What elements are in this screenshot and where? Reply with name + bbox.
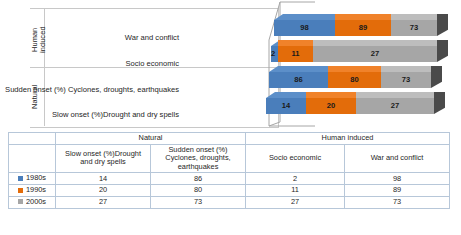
table-column-header-sudden-onset: Sudden onset (%) Cyclones, droughts, ear… (151, 144, 246, 173)
bar-end-face (434, 92, 445, 114)
bar-segment-2000s (313, 46, 437, 62)
legend-label: 2000s (26, 197, 46, 206)
table-group-header-row: Natural Human induced (9, 133, 450, 145)
legend-item-1990s: 1990s (9, 185, 56, 197)
bar-segment-2000s (381, 72, 431, 88)
bar-segment-1980s (266, 98, 306, 114)
table-cell: 86 (151, 173, 246, 185)
bar-row-sudden-onset: 86 80 73 (269, 66, 445, 88)
bar-segment-2000s (391, 20, 437, 36)
legend-label: 1990s (26, 185, 46, 194)
bar-row-socio-economic: 2 11 27 (271, 40, 447, 62)
bar-row-war-and-conflict: 98 89 73 (274, 14, 450, 36)
chart-and-table-figure: Human induced Natural War and conflict S… (0, 0, 461, 235)
table-row: 1980s 14 86 2 98 (9, 173, 450, 185)
table-corner-blank (9, 133, 56, 145)
group-label-human-induced: Human induced (31, 12, 44, 67)
legend-swatch-icon (18, 199, 23, 204)
legend-label: 1980s (26, 173, 46, 182)
table-cell: 27 (246, 197, 345, 209)
data-table-panel: Natural Human induced Slow onset (%)Drou… (0, 129, 461, 235)
data-table: Natural Human induced Slow onset (%)Drou… (8, 132, 450, 209)
table-group-header-human-induced: Human induced (246, 133, 450, 145)
bar-segment-1990s (306, 98, 356, 114)
category-label-slow-onset: Slow onset (%)Drought and dry spells (52, 110, 179, 119)
table-cell: 73 (151, 197, 246, 209)
table-row: 2000s 27 73 27 73 (9, 197, 450, 209)
legend-item-1980s: 1980s (9, 173, 56, 185)
table-column-header-war-and-conflict: War and conflict (345, 144, 450, 173)
stacked-bar-chart-3d: Human induced Natural War and conflict S… (0, 0, 461, 128)
bar-segment-1980s (269, 72, 328, 88)
category-label-sudden-onset: Sudden onset (%) Cyclones, droughts, ear… (5, 85, 179, 94)
category-label-war-and-conflict: War and conflict (125, 33, 179, 42)
table-cell: 89 (345, 185, 450, 197)
table-row: 1990s 20 80 11 89 (9, 185, 450, 197)
legend-item-2000s: 2000s (9, 197, 56, 209)
table-cell: 73 (345, 197, 450, 209)
table-cell: 98 (345, 173, 450, 185)
table-cell: 27 (56, 197, 151, 209)
bar-segment-1980s (271, 46, 278, 62)
table-cell: 80 (151, 185, 246, 197)
group-label-natural: Natural (31, 68, 44, 126)
table-cell: 14 (56, 173, 151, 185)
table-group-header-natural: Natural (56, 133, 246, 145)
category-label-socio-economic: Socio economic (125, 59, 179, 68)
bar-segment-1980s (274, 20, 335, 36)
table-cell: 20 (56, 185, 151, 197)
bar-segment-1990s (328, 72, 381, 88)
bar-segment-1990s (278, 46, 313, 62)
table-corner-blank-2 (9, 144, 56, 173)
legend-swatch-icon (18, 188, 23, 193)
bar-segment-2000s (356, 98, 434, 114)
table-column-header-slow-onset: Slow onset (%)Drought and dry spells (56, 144, 151, 173)
bar-end-face (437, 40, 448, 62)
bar-row-slow-onset: 14 20 27 (266, 92, 442, 114)
table-column-header-row: Slow onset (%)Drought and dry spells Sud… (9, 144, 450, 173)
legend-swatch-icon (18, 176, 23, 181)
bar-end-face (437, 14, 448, 36)
bar-end-face (431, 66, 442, 88)
bar-segment-1990s (335, 20, 391, 36)
table-column-header-socio-economic: Socio economic (246, 144, 345, 173)
table-cell: 2 (246, 173, 345, 185)
table-cell: 11 (246, 185, 345, 197)
